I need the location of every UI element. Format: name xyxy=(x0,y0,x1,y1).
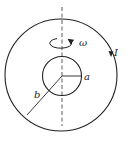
inner-radius-label: a xyxy=(84,71,90,82)
current-label: I xyxy=(113,47,119,58)
outer-radius-label: b xyxy=(34,89,40,100)
annulus-diagram: ω I a b xyxy=(0,0,130,144)
outer-circle xyxy=(5,19,117,131)
omega-label: ω xyxy=(79,37,87,48)
rotation-arrow-icon xyxy=(50,39,72,49)
radius-b-line xyxy=(27,76,62,115)
